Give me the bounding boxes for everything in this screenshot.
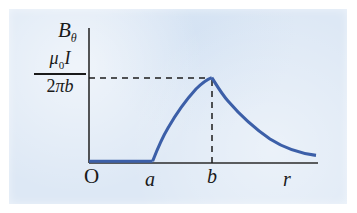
- figure-container: Bθ μ0I 2πb O a b r: [0, 0, 357, 213]
- y-axis-label-symbol: B: [58, 18, 71, 42]
- origin-label: O: [84, 166, 99, 187]
- y-tick-denominator: 2πb: [34, 76, 86, 96]
- mu-symbol: μ: [49, 48, 58, 68]
- current-symbol: I: [64, 48, 70, 68]
- y-axis-label: Bθ: [58, 20, 77, 44]
- x-axis-label: r: [283, 169, 291, 189]
- field-curve-rising: [153, 78, 212, 162]
- radius-b-symbol: b: [65, 76, 74, 96]
- x-tick-label-a: a: [145, 169, 155, 189]
- plot-area: [0, 0, 357, 213]
- y-axis-tick-value: μ0I 2πb: [34, 49, 86, 96]
- pi-symbol: π: [55, 76, 64, 96]
- field-curve-decaying: [212, 78, 316, 156]
- y-tick-numerator: μ0I: [34, 49, 86, 72]
- x-tick-label-b: b: [207, 166, 217, 186]
- y-axis-label-subscript: θ: [71, 31, 77, 45]
- fraction-bar: [34, 73, 86, 75]
